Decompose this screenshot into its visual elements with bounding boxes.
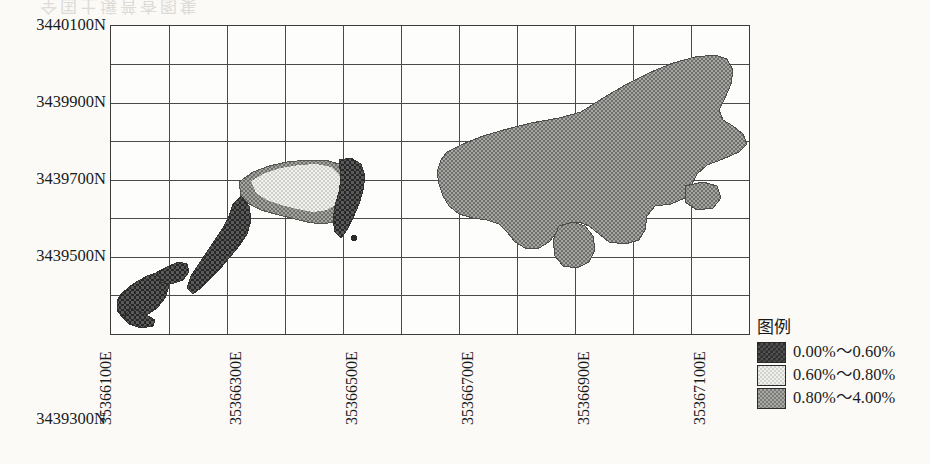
legend: 图例 0.00%～0.60% 0.60%～0.80% 0.80%～4.00% [757, 318, 927, 410]
legend-label-0: 0.00%～0.60% [793, 344, 895, 361]
legend-title: 图例 [757, 318, 927, 338]
y-axis-label: 3440100N [10, 17, 106, 34]
y-axis-label: 3439300N [10, 411, 106, 428]
legend-item: 0.80%～4.00% [757, 387, 927, 410]
x-axis-label: 35366100E [98, 351, 114, 425]
y-axis-label: 3439700N [10, 171, 106, 188]
legend-swatch-1 [757, 365, 786, 386]
x-axis-label: 35366900E [576, 351, 592, 425]
map-region-layer [111, 26, 749, 334]
legend-label-2: 0.80%～4.00% [793, 390, 895, 407]
x-axis-label: 35366700E [460, 351, 476, 425]
y-axis-label: 3439900N [10, 94, 106, 111]
map-plot-area [110, 25, 750, 335]
y-axis-label: 3439500N [10, 248, 106, 265]
legend-item: 0.00%～0.60% [757, 341, 927, 364]
x-axis-label: 35367100E [692, 351, 708, 425]
x-axis-label: 35366500E [344, 351, 360, 425]
x-axis-label: 35366300E [228, 351, 244, 425]
legend-item: 0.60%～0.80% [757, 364, 927, 387]
legend-swatch-2 [757, 388, 786, 409]
legend-label-1: 0.60%～0.80% [793, 367, 895, 384]
legend-swatch-0 [757, 342, 786, 363]
